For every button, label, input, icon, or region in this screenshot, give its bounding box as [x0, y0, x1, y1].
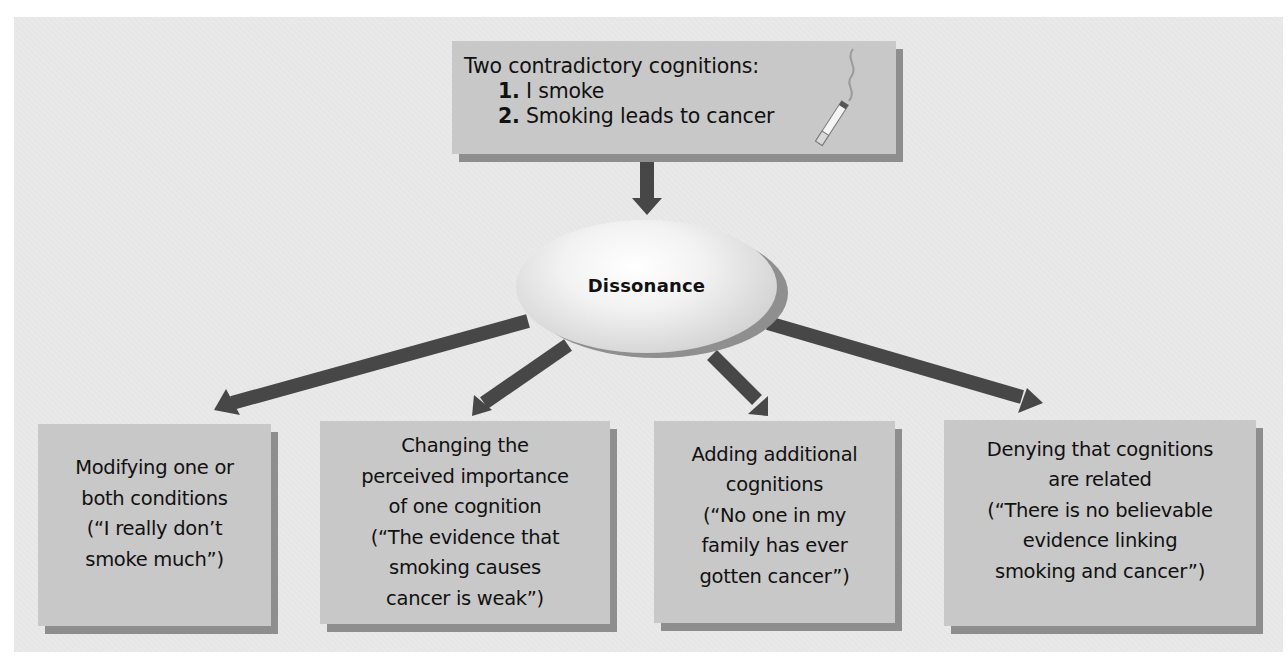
cognitions-heading: Two contradictory cognitions:	[464, 54, 774, 79]
outcome-text-2: Changing the perceived importance of one…	[361, 431, 569, 614]
outcome-text-1: Modifying one or both conditions (“I rea…	[75, 453, 234, 575]
cigarette-icon	[815, 45, 875, 155]
outcome-text-4: Denying that cognitions are related (“Th…	[987, 435, 1213, 588]
cognition-number-2: 2.	[498, 104, 520, 128]
arrow-to-box-2	[472, 345, 568, 416]
cognition-item-2: 2. Smoking leads to cancer	[464, 104, 774, 129]
cognition-text-2: Smoking leads to cancer	[526, 104, 774, 128]
outcome-text-3: Adding additional cognitions (“No one in…	[692, 440, 858, 593]
outcome-box-deny-relation: Denying that cognitions are related (“Th…	[944, 420, 1256, 626]
dissonance-node: Dissonance	[516, 220, 777, 353]
cognition-text-1: I smoke	[526, 79, 604, 103]
outcome-box-add-cognitions: Adding additional cognitions (“No one in…	[654, 421, 895, 623]
outcome-box-change-importance: Changing the perceived importance of one…	[320, 421, 610, 624]
cognition-number-1: 1.	[498, 79, 520, 103]
arrow-to-box-4	[768, 323, 1043, 413]
outcome-box-modify: Modifying one or both conditions (“I rea…	[38, 424, 271, 626]
dissonance-label: Dissonance	[588, 275, 706, 296]
arrow-to-box-3	[712, 355, 768, 416]
cognition-item-1: 1. I smoke	[464, 79, 774, 104]
arrow-down-to-dissonance	[632, 158, 662, 215]
